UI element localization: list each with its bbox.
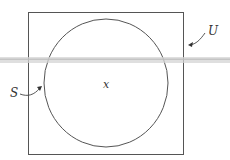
scan-band-line [0,59,230,61]
universe-arrowhead-icon [188,42,193,47]
universe-label: U [208,24,219,38]
venn-diagram: x U S [0,0,230,160]
element-label: x [103,78,110,91]
set-label: S [10,86,18,100]
set-arrow-icon [20,88,40,95]
